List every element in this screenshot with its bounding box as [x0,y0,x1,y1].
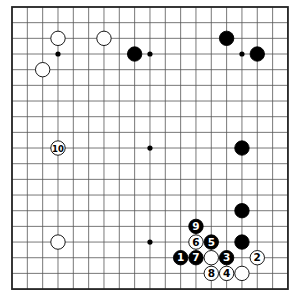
move-number: 1 [177,251,184,263]
move-number: 10 [52,144,64,154]
white-stone [204,251,218,265]
white-stone [35,62,49,76]
white-stone-move-2: 2 [250,251,264,265]
move-number: 3 [223,251,230,263]
go-board: 10965173284 [0,0,295,298]
white-stone [235,266,249,280]
white-stone [51,235,65,249]
black-stone [250,47,264,61]
white-stone-move-4: 4 [219,266,233,280]
black-stone-move-1: 1 [173,251,187,265]
move-number: 7 [192,251,199,263]
move-number: 5 [208,236,215,248]
black-stone [235,204,249,218]
move-number: 6 [192,236,199,248]
star-point [239,51,244,56]
black-stone [235,141,249,155]
white-stone [51,31,65,45]
black-stone [127,47,141,61]
black-stone [219,31,233,45]
black-stone [235,235,249,249]
move-number: 4 [223,267,230,279]
move-number: 9 [192,220,199,232]
white-stone [97,31,111,45]
black-stone-move-7: 7 [189,251,203,265]
black-stone-move-9: 9 [189,219,203,233]
star-point [147,239,152,244]
move-number: 8 [208,267,215,279]
white-stone-move-10: 10 [51,141,65,155]
star-point [147,145,152,150]
star-point [55,51,60,56]
black-stone-move-3: 3 [219,251,233,265]
white-stone-move-8: 8 [204,266,218,280]
white-stone-move-6: 6 [189,235,203,249]
star-point [147,51,152,56]
move-number: 2 [254,251,261,263]
black-stone-move-5: 5 [204,235,218,249]
